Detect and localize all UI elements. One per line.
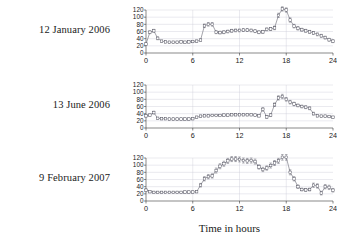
panel-label-1: 13 June 2006 — [2, 99, 110, 110]
y-tick-label: 120 — [133, 6, 144, 13]
x-tick-label: 12 — [236, 204, 244, 213]
y-tick-label: 60 — [136, 176, 144, 183]
x-tick-label: 12 — [236, 131, 244, 140]
y-tick-label: 40 — [136, 35, 144, 42]
y-tick-label: 80 — [136, 169, 144, 176]
x-axis-label: Time in hours — [122, 222, 337, 234]
y-tick-label: 60 — [136, 28, 144, 35]
x-tick-label: 6 — [191, 56, 195, 65]
x-tick-label: 18 — [282, 131, 290, 140]
y-tick-label: 20 — [136, 117, 144, 124]
x-tick-label: 24 — [329, 204, 337, 213]
y-tick-label: 120 — [133, 81, 144, 88]
chart-svg-2: 02040608010012006121824 — [122, 154, 337, 216]
y-tick-label: 40 — [136, 110, 144, 117]
y-tick-label: 100 — [133, 13, 144, 20]
y-tick-label: 60 — [136, 103, 144, 110]
panel-label-0: 12 January 2006 — [2, 24, 110, 35]
x-tick-label: 6 — [191, 131, 195, 140]
x-tick-label: 0 — [144, 131, 148, 140]
x-tick-label: 12 — [236, 56, 244, 65]
y-tick-label: 100 — [133, 88, 144, 95]
y-tick-label: 20 — [136, 190, 144, 197]
x-tick-label: 0 — [144, 204, 148, 213]
chart-panel-0: 12 January 2006 02040608010012006121824 — [0, 2, 353, 74]
plot-area-2: 02040608010012006121824 — [122, 154, 337, 216]
figure-root: 12 January 2006 02040608010012006121824 … — [0, 0, 353, 242]
x-tick-label: 0 — [144, 56, 148, 65]
y-tick-label: 80 — [136, 21, 144, 28]
chart-panel-1: 13 June 2006 02040608010012006121824 — [0, 77, 353, 149]
y-tick-label: 40 — [136, 183, 144, 190]
chart-svg-1: 02040608010012006121824 — [122, 81, 337, 143]
y-tick-label: 100 — [133, 161, 144, 168]
x-tick-label: 6 — [191, 204, 195, 213]
plot-area-1: 02040608010012006121824 — [122, 81, 337, 143]
x-tick-label: 18 — [282, 56, 290, 65]
y-tick-label: 120 — [133, 154, 144, 161]
x-tick-label: 24 — [329, 131, 337, 140]
chart-svg-0: 02040608010012006121824 — [122, 6, 337, 68]
x-tick-label: 24 — [329, 56, 337, 65]
panel-label-2: 9 February 2007 — [2, 172, 110, 183]
chart-panel-2: 9 February 2007 02040608010012006121824 — [0, 150, 353, 222]
y-tick-label: 20 — [136, 42, 144, 49]
plot-area-0: 02040608010012006121824 — [122, 6, 337, 68]
y-tick-label: 80 — [136, 96, 144, 103]
x-tick-label: 18 — [282, 204, 290, 213]
